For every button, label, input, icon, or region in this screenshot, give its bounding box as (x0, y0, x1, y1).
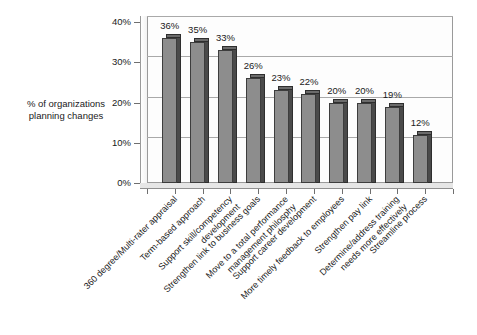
bar (218, 46, 237, 183)
bar-side-face (261, 76, 265, 183)
bar (274, 86, 293, 183)
bar-front-face (329, 103, 344, 184)
x-tick-mark (453, 189, 454, 194)
x-tick-mark (342, 189, 343, 194)
bar (329, 99, 348, 184)
bar-side-face (316, 92, 320, 183)
bar-value-label: 20% (350, 86, 379, 96)
bar-value-label: 36% (155, 21, 184, 31)
bar (190, 38, 209, 183)
bar (301, 90, 320, 183)
bar-value-label: 20% (322, 86, 351, 96)
bar-value-label: 35% (183, 25, 212, 35)
bar-side-face (400, 105, 404, 183)
bar-value-label: 23% (267, 73, 296, 83)
bar-side-face (205, 40, 209, 183)
bar-front-face (301, 94, 316, 183)
x-tick-mark (370, 189, 371, 194)
bar-front-face (218, 50, 233, 183)
bar-front-face (274, 90, 289, 183)
bar-front-face (246, 78, 261, 183)
bar-side-face (428, 133, 432, 183)
x-tick-mark (397, 189, 398, 194)
bar-value-label: 33% (211, 33, 240, 43)
bar-front-face (385, 107, 400, 183)
bar-value-label: 26% (239, 61, 268, 71)
x-tick-mark (175, 189, 176, 194)
bar-front-face (413, 135, 428, 183)
bar (385, 103, 404, 183)
x-tick-mark (147, 189, 148, 194)
x-tick-mark (425, 189, 426, 194)
bar-value-label: 19% (378, 90, 407, 100)
x-tick-mark (258, 189, 259, 194)
bar-value-label: 12% (406, 118, 435, 128)
bars-layer: 36%35%33%26%23%22%20%20%19%12% (0, 0, 477, 335)
bar-side-face (177, 36, 181, 183)
bar-side-face (372, 101, 376, 184)
bar-side-face (344, 101, 348, 184)
bar (162, 34, 181, 183)
bar-side-face (289, 88, 293, 183)
bar-side-face (233, 48, 237, 183)
bar (246, 74, 265, 183)
bar-chart: % of organizations planning changes 0%10… (0, 0, 477, 335)
x-tick-mark (286, 189, 287, 194)
x-tick-mark (230, 189, 231, 194)
x-tick-mark (314, 189, 315, 194)
bar-front-face (190, 42, 205, 183)
bar-front-face (162, 38, 177, 183)
bar (357, 99, 376, 184)
bar-value-label: 22% (294, 77, 323, 87)
x-tick-mark (203, 189, 204, 194)
bar-front-face (357, 103, 372, 184)
bar (413, 131, 432, 183)
